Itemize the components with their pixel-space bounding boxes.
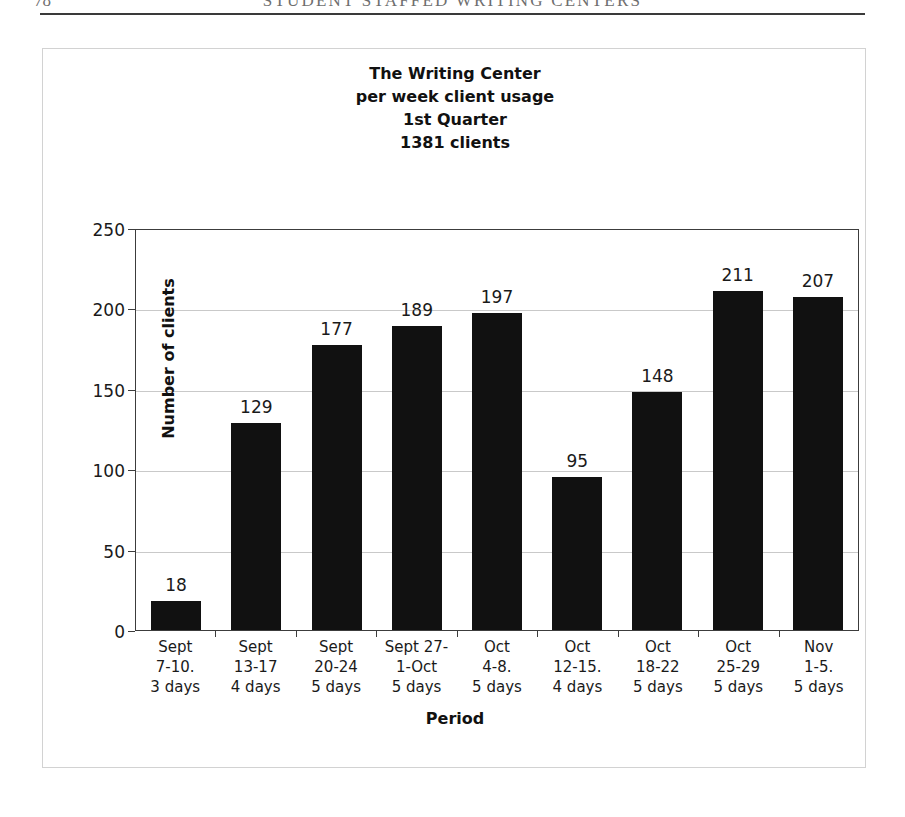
bar (632, 392, 682, 630)
bar-value-label: 177 (320, 319, 352, 339)
x-axis-labels: Sept7-10.3 daysSept13-174 daysSept20-245… (135, 637, 859, 697)
x-axis-label-7: Oct18-225 days (618, 637, 698, 697)
x-axis-label-3: Sept20-245 days (296, 637, 376, 697)
chart-title-line-3: 1st Quarter (43, 108, 867, 131)
header-divider-rule (40, 13, 865, 15)
bar (713, 291, 763, 630)
y-tick-mark-200 (128, 309, 135, 310)
x-axis-label-9: Nov1-5.5 days (779, 637, 859, 697)
bar-value-label: 18 (165, 575, 187, 595)
page-running-header: 78 STUDENT STAFFED WRITING CENTERS (0, 0, 905, 22)
x-axis-label-line: 1-Oct (376, 657, 456, 677)
x-tick-mark (779, 631, 780, 637)
x-axis-label-line: 13-17 (215, 657, 295, 677)
x-axis-label-line: Sept (296, 637, 376, 657)
x-axis-label-line: 5 days (296, 677, 376, 697)
y-tick-mark-150 (128, 390, 135, 391)
bar-slot: 197 (457, 230, 537, 630)
y-tick-label-200: 200 (79, 300, 125, 320)
x-axis-label-line: 3 days (135, 677, 215, 697)
y-tick-mark-250 (128, 229, 135, 230)
x-axis-label-line: 4-8. (457, 657, 537, 677)
bar-value-label: 95 (566, 451, 588, 471)
plot-area: 1812917718919795148211207 (135, 229, 859, 631)
bar-value-label: 207 (802, 271, 834, 291)
bar (552, 477, 602, 630)
x-axis-label-8: Oct25-295 days (698, 637, 778, 697)
x-axis-label-line: Sept (135, 637, 215, 657)
chart-title-line-4: 1381 clients (43, 131, 867, 154)
bar (793, 297, 843, 630)
x-tick-mark (457, 631, 458, 637)
x-tick-mark (537, 631, 538, 637)
x-axis-label-line: 25-29 (698, 657, 778, 677)
x-tick-mark (618, 631, 619, 637)
bar (472, 313, 522, 630)
x-axis-label-6: Oct12-15.4 days (537, 637, 617, 697)
y-tick-label-100: 100 (79, 461, 125, 481)
x-tick-mark (296, 631, 297, 637)
bar-value-label: 197 (481, 287, 513, 307)
x-axis-label-line: Sept (215, 637, 295, 657)
x-axis-label-1: Sept7-10.3 days (135, 637, 215, 697)
chart-title: The Writing Centerper week client usage1… (43, 62, 867, 154)
bar-slot: 177 (296, 230, 376, 630)
x-axis-label-2: Sept13-174 days (215, 637, 295, 697)
bar-slot: 95 (537, 230, 617, 630)
bar-slot: 129 (216, 230, 296, 630)
y-tick-label-150: 150 (79, 381, 125, 401)
x-axis-label-line: Oct (698, 637, 778, 657)
bar-slot: 189 (377, 230, 457, 630)
x-axis-label-line: Oct (618, 637, 698, 657)
x-axis-label-5: Oct4-8.5 days (457, 637, 537, 697)
x-axis-label-line: Nov (779, 637, 859, 657)
x-axis-label-line: 20-24 (296, 657, 376, 677)
bar-value-label: 189 (401, 300, 433, 320)
x-axis-label-line: 7-10. (135, 657, 215, 677)
bar-value-label: 211 (721, 265, 753, 285)
bar (392, 326, 442, 630)
running-head-text: STUDENT STAFFED WRITING CENTERS (0, 0, 905, 11)
chart-container: The Writing Centerper week client usage1… (42, 48, 866, 768)
bar-slot: 207 (778, 230, 858, 630)
x-axis-label-line: 5 days (698, 677, 778, 697)
x-axis-label-4: Sept 27-1-Oct5 days (376, 637, 456, 697)
x-axis-label-line: 5 days (618, 677, 698, 697)
bar-slot: 148 (617, 230, 697, 630)
y-tick-label-0: 0 (79, 622, 125, 642)
y-tick-label-50: 50 (79, 542, 125, 562)
x-axis-label-line: 5 days (457, 677, 537, 697)
y-tick-label-250: 250 (79, 220, 125, 240)
x-axis-label-line: 12-15. (537, 657, 617, 677)
x-tick-mark (376, 631, 377, 637)
bar (312, 345, 362, 630)
bar-series: 1812917718919795148211207 (136, 230, 858, 630)
x-axis-label-line: 4 days (537, 677, 617, 697)
x-axis-label-line: 5 days (376, 677, 456, 697)
x-axis-label-line: 5 days (779, 677, 859, 697)
x-axis-label-line: Oct (537, 637, 617, 657)
bar (151, 601, 201, 630)
y-tick-mark-50 (128, 551, 135, 552)
x-axis-label-line: 4 days (215, 677, 295, 697)
x-axis-label-line: Sept 27- (376, 637, 456, 657)
x-axis-title: Period (43, 709, 867, 728)
x-tick-mark (215, 631, 216, 637)
bar-slot: 211 (698, 230, 778, 630)
chart-title-line-2: per week client usage (43, 85, 867, 108)
x-axis-label-line: Oct (457, 637, 537, 657)
chart-title-line-1: The Writing Center (43, 62, 867, 85)
x-axis-label-line: 18-22 (618, 657, 698, 677)
y-axis-title: Number of clients (159, 229, 178, 489)
y-tick-mark-100 (128, 470, 135, 471)
x-axis-label-line: 1-5. (779, 657, 859, 677)
bar-value-label: 129 (240, 397, 272, 417)
bar-value-label: 148 (641, 366, 673, 386)
bar (231, 423, 281, 630)
x-tick-mark (698, 631, 699, 637)
y-tick-mark-0 (128, 631, 135, 632)
